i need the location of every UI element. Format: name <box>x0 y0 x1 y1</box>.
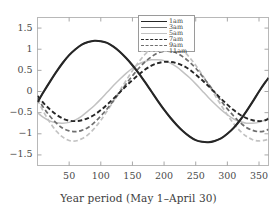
y-tick-label: 0 <box>3 85 33 96</box>
legend-swatch-9am <box>141 45 167 46</box>
x-tick-label: 300 <box>212 170 242 181</box>
chart-figure: −1.5−1−0.500.511.5 50100150200250300350 … <box>0 0 277 215</box>
x-tick-label: 50 <box>54 170 84 181</box>
series-line-7am <box>38 62 269 121</box>
legend-swatch-1am <box>141 21 167 22</box>
y-tick-label: 1 <box>3 43 33 54</box>
x-axis-label: Year period (May 1–April 30) <box>0 192 277 204</box>
legend-item-3am: 3am <box>139 25 194 31</box>
y-tick-label: −1.5 <box>3 148 33 159</box>
x-tick-label: 100 <box>86 170 116 181</box>
chart-legend: 1am3am5am7am9am11am <box>138 15 195 52</box>
legend-swatch-11am <box>141 51 167 52</box>
y-tick-label: −1 <box>3 127 33 138</box>
series-line-5am <box>38 60 269 124</box>
legend-item-7am: 7am <box>139 37 194 43</box>
legend-item-11am: 11am <box>139 49 194 55</box>
series-lines <box>38 41 269 143</box>
y-tick-label: 1.5 <box>3 22 33 33</box>
x-tick-label: 250 <box>181 170 211 181</box>
legend-item-5am: 5am <box>139 31 194 37</box>
legend-swatch-7am <box>141 39 167 40</box>
legend-item-1am: 1am <box>139 19 194 25</box>
x-tick-label: 200 <box>149 170 179 181</box>
y-tick-label: −0.5 <box>3 106 33 117</box>
x-tick-label: 350 <box>244 170 274 181</box>
legend-swatch-5am <box>141 33 167 34</box>
y-tick-label: 0.5 <box>3 64 33 75</box>
legend-swatch-3am <box>141 27 167 28</box>
x-tick-label: 150 <box>117 170 147 181</box>
legend-label-11am: 11am <box>169 48 187 55</box>
